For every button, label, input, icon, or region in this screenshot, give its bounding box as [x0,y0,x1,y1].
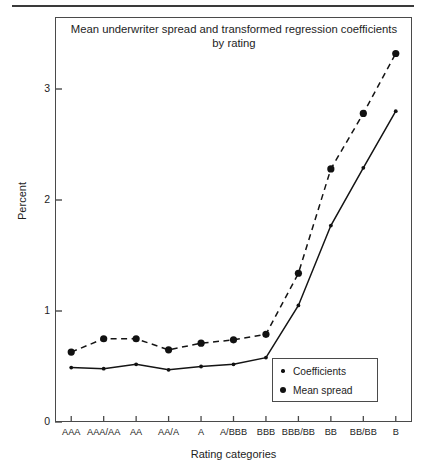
data-point [232,362,236,366]
data-point [394,109,398,113]
data-point [68,348,75,355]
y-axis-ticks [55,89,62,422]
data-point [167,368,171,372]
data-point [134,362,138,366]
data-point [392,50,399,57]
data-point [165,346,172,353]
series-line-coefficients [71,111,396,370]
data-point [327,165,334,172]
data-point [264,356,268,360]
data-point [262,331,269,338]
x-axis-ticks [71,416,396,422]
data-point [361,166,365,170]
legend-small-dot-icon [281,369,284,372]
data-point [295,270,302,277]
data-point [102,367,106,371]
legend-large-dot-icon [280,387,286,393]
data-point [329,224,333,228]
data-point [69,366,73,370]
chart-figure: Mean underwriter spread and transformed … [0,0,426,473]
data-point [197,340,204,347]
data-point [199,365,203,369]
data-point [360,110,367,117]
legend-label-coefficients: Coefficients [293,366,346,377]
series-layer [68,50,400,372]
legend-item-coefficients: Coefficients [280,361,346,381]
chart-legend: Coefficients Mean spread [272,358,378,402]
data-point [100,335,107,342]
data-point [297,304,301,308]
data-point [230,336,237,343]
legend-label-mean-spread: Mean spread [293,385,352,396]
data-point [133,335,140,342]
chart-canvas [0,0,426,473]
series-line-mean-spread [71,53,396,352]
legend-item-mean-spread: Mean spread [280,380,352,400]
